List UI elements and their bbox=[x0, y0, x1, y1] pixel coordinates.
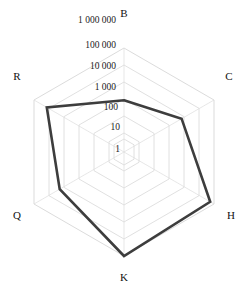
radar-chart-canvas: B C H K Q R 1 000 000 100 000 10 000 1 0… bbox=[0, 0, 248, 293]
tick-label-100000: 100 000 bbox=[85, 40, 116, 50]
axis-label-K: K bbox=[120, 271, 128, 283]
tick-label-10000: 10 000 bbox=[90, 61, 116, 71]
radar-grid bbox=[34, 48, 214, 256]
axis-label-C: C bbox=[225, 70, 232, 82]
axis-label-Q: Q bbox=[13, 209, 21, 221]
tick-label-10: 10 bbox=[111, 122, 121, 132]
axis-label-B: B bbox=[120, 7, 127, 19]
radar-tick-labels: 1 000 000 100 000 10 000 1 000 100 10 1 bbox=[78, 15, 120, 154]
radar-chart: B C H K Q R 1 000 000 100 000 10 000 1 0… bbox=[0, 0, 248, 293]
axis-label-H: H bbox=[227, 209, 235, 221]
axis-label-R: R bbox=[13, 70, 21, 82]
tick-label-100: 100 bbox=[104, 102, 119, 112]
tick-label-1000000: 1 000 000 bbox=[78, 15, 116, 25]
radar-series-group bbox=[47, 100, 210, 256]
tick-label-1000: 1 000 bbox=[95, 82, 117, 92]
tick-label-1: 1 bbox=[115, 144, 120, 154]
radar-series-1-shape bbox=[47, 100, 210, 256]
